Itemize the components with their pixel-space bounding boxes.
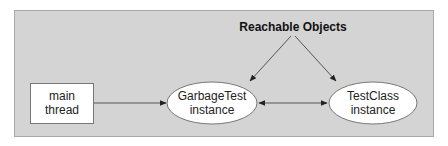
reachable-objects-label: Reachable Objects — [239, 20, 347, 34]
node-main-thread: main thread — [31, 84, 94, 124]
main-thread-label-line1: main — [49, 89, 75, 103]
garbagetest-label-line2: instance — [190, 103, 235, 117]
garbagetest-label-line1: GarbageTest — [178, 89, 247, 103]
node-garbagetest-instance: GarbageTest instance — [167, 82, 257, 124]
testclass-label-line1: TestClass — [347, 89, 399, 103]
testclass-label-line2: instance — [351, 103, 396, 117]
diagram-canvas: Reachable Objects main thread GarbageTes… — [0, 0, 448, 146]
main-thread-label-line2: thread — [45, 103, 79, 117]
node-testclass-instance: TestClass instance — [329, 82, 417, 124]
